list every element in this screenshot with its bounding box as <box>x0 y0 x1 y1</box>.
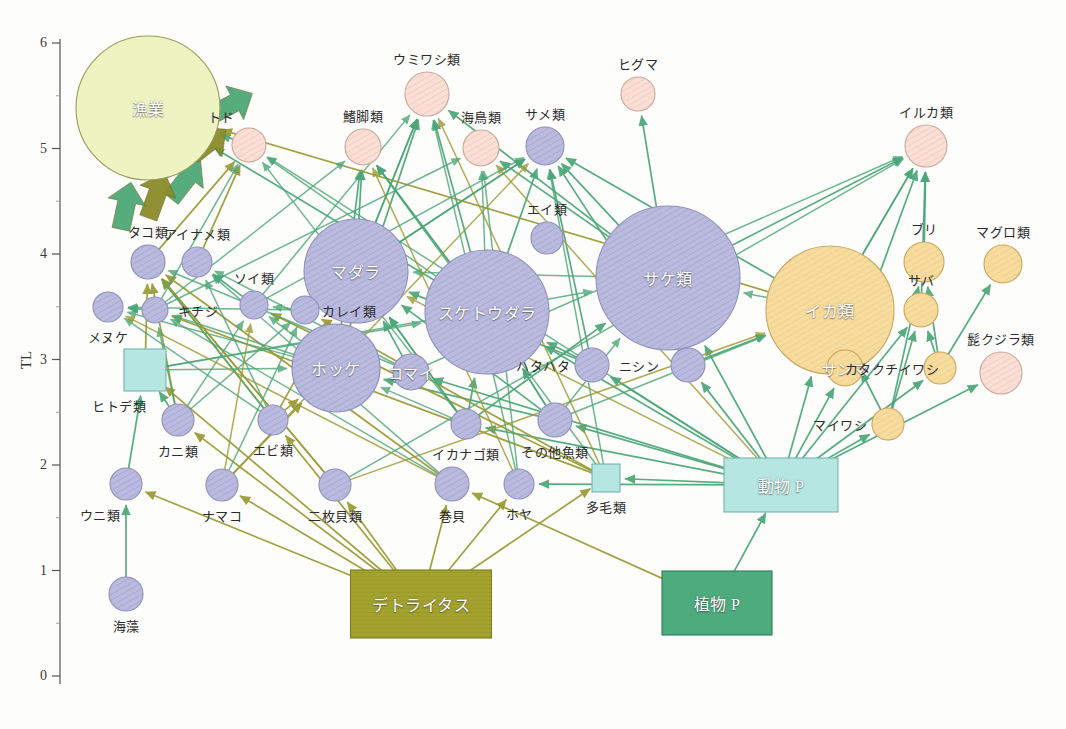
node-kanirui[interactable] <box>162 404 194 436</box>
node-makigai[interactable] <box>435 467 469 501</box>
node-takorui[interactable] <box>131 245 165 279</box>
node-label-hoya: ホヤ <box>506 504 533 523</box>
node-label-namako: ナマコ <box>202 506 243 525</box>
node-label-shokubutsuP: 植物 P <box>694 591 741 615</box>
node-label-kikyakurui: 鰭脚類 <box>343 106 384 125</box>
node-hitode[interactable] <box>124 349 166 391</box>
node-same[interactable] <box>526 127 564 165</box>
node-label-makigai: 巻貝 <box>439 506 466 525</box>
node-label-umiwashi: ウミワシ類 <box>393 49 461 68</box>
y-axis-title: TL <box>18 351 35 369</box>
node-kareirui[interactable] <box>291 296 319 324</box>
node-label-suketoudara: スケトウダラ <box>438 300 537 324</box>
node-namako[interactable] <box>206 469 238 501</box>
node-label-nishin: ニシン <box>619 356 660 375</box>
node-kikyakurui[interactable] <box>345 129 381 165</box>
node-label-katakuchi: カタクチイワシ <box>845 359 940 378</box>
node-hatahata[interactable] <box>575 348 609 382</box>
node-todo[interactable] <box>232 128 266 162</box>
node-label-kareirui: カレイ類 <box>322 301 376 320</box>
node-tamourui[interactable] <box>592 464 620 492</box>
node-maguro[interactable] <box>984 245 1022 283</box>
node-label-eirui: エイ類 <box>527 199 568 218</box>
node-label-soirui: ソイ類 <box>234 268 275 287</box>
node-label-menuke: メヌケ <box>88 327 129 346</box>
y-tick-label: 1 <box>40 563 47 579</box>
node-kichiji[interactable] <box>142 297 168 323</box>
node-umiwashi[interactable] <box>405 72 449 116</box>
node-label-iruka: イルカ類 <box>899 102 953 121</box>
node-saba[interactable] <box>904 293 938 327</box>
node-label-maiwashi: マイワシ <box>813 415 867 434</box>
node-label-higekujira: 髭クジラ類 <box>967 329 1035 348</box>
node-label-hatahata: ハタハタ <box>516 356 570 375</box>
node-ainame[interactable] <box>182 247 212 277</box>
y-axis <box>52 39 60 684</box>
y-tick-label: 4 <box>40 246 47 262</box>
node-label-unirui: ウニ類 <box>80 505 121 524</box>
node-hoya[interactable] <box>504 469 534 499</box>
node-label-maguro: マグロ類 <box>976 222 1030 241</box>
node-label-ikanago: イカナゴ類 <box>432 444 500 463</box>
node-iruka[interactable] <box>905 125 947 167</box>
y-tick-label: 5 <box>40 141 47 157</box>
node-label-same: サメ類 <box>525 104 566 123</box>
node-menuke[interactable] <box>93 292 123 322</box>
node-label-detritus: デトライタス <box>372 592 470 616</box>
node-label-nimaigai: 二枚貝類 <box>308 506 362 525</box>
node-label-kanirui: カニ類 <box>158 441 199 460</box>
node-nimaigai[interactable] <box>319 469 351 501</box>
node-ikanago[interactable] <box>451 409 481 439</box>
node-label-madara: マダラ <box>331 259 381 283</box>
node-label-tamourui: 多毛類 <box>586 497 627 516</box>
node-label-higuma: ヒグマ <box>618 54 659 73</box>
node-nishin[interactable] <box>671 348 705 382</box>
node-label-kaisou: 海藻 <box>113 616 140 635</box>
node-label-takorui: タコ類 <box>128 222 169 241</box>
node-higekujira[interactable] <box>980 352 1022 394</box>
node-maiwashi[interactable] <box>872 408 904 440</box>
node-label-hitode: ヒトデ類 <box>92 396 146 415</box>
node-eirui[interactable] <box>531 222 563 254</box>
node-kaichou[interactable] <box>463 130 499 166</box>
node-ebirui[interactable] <box>258 405 288 435</box>
y-tick-label: 2 <box>40 457 47 473</box>
node-kaisou[interactable] <box>109 577 143 611</box>
y-tick-label: 6 <box>40 35 47 51</box>
node-label-ebirui: エビ類 <box>253 440 294 459</box>
node-label-kichiji: キチジ <box>178 301 219 320</box>
node-label-fishery: 漁業 <box>132 96 165 120</box>
node-label-ikarui: イカ類 <box>805 298 855 322</box>
node-label-hokke: ホッケ <box>311 356 361 380</box>
node-label-buri: ブリ <box>911 219 938 238</box>
node-label-sonota: その他魚類 <box>521 442 589 461</box>
node-label-sakerui: サケ類 <box>643 266 693 290</box>
node-label-ainame: アイナメ類 <box>164 224 231 243</box>
node-soirui[interactable] <box>240 291 268 319</box>
node-label-todo: トド <box>208 107 235 126</box>
node-label-doubutsuP: 動物 P <box>758 473 805 497</box>
node-higuma[interactable] <box>621 77 655 111</box>
food-web-figure: 漁業トド鰭脚類ウミワシ類海鳥類サメ類ヒグマイルカ類タコ類アイナメ類エイ類ブリマグ… <box>0 0 1066 729</box>
node-label-saba: サバ <box>908 270 934 289</box>
node-unirui[interactable] <box>110 468 142 500</box>
node-label-kaichou: 海鳥類 <box>461 107 502 126</box>
node-label-komai: コマイ <box>388 362 435 383</box>
node-sonota[interactable] <box>538 403 572 437</box>
y-tick-label: 3 <box>40 352 47 368</box>
y-tick-label: 0 <box>40 668 47 684</box>
